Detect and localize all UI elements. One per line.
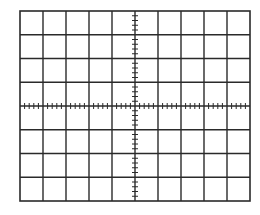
oscilloscope-graticule bbox=[0, 0, 260, 215]
